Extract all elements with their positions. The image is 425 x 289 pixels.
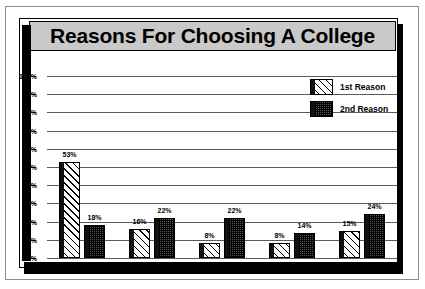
legend-swatch-left-edge bbox=[311, 102, 315, 116]
y-axis-tick-mark bbox=[31, 185, 36, 186]
bar-second-reason[interactable] bbox=[294, 233, 315, 258]
legend-swatch-second-reason[interactable] bbox=[310, 101, 333, 117]
gridline bbox=[47, 149, 397, 150]
y-axis-tick-mark bbox=[31, 258, 36, 259]
y-axis-tick-mark bbox=[31, 131, 36, 132]
y-axis-tick-mark bbox=[31, 94, 36, 95]
y-axis-tick-mark bbox=[31, 167, 36, 168]
gridline bbox=[47, 131, 397, 132]
legend-label: 2nd Reason bbox=[340, 104, 388, 114]
bar-value-label: 8% bbox=[274, 232, 284, 239]
gridline bbox=[47, 94, 397, 95]
y-axis-tick-mark bbox=[31, 149, 36, 150]
bar-left-edge bbox=[130, 230, 134, 257]
gridline bbox=[47, 167, 397, 168]
bar-value-label: 22% bbox=[227, 207, 241, 214]
bar-value-label: 8% bbox=[204, 232, 214, 239]
bar-first-reason[interactable] bbox=[269, 243, 290, 258]
y-axis-tick-mark bbox=[31, 203, 36, 204]
bar-second-reason[interactable] bbox=[84, 225, 105, 258]
bar-left-edge bbox=[270, 244, 274, 257]
bar-first-reason[interactable] bbox=[129, 229, 150, 258]
category-label: Nearby Location bbox=[55, 262, 110, 269]
bar-value-label: 24% bbox=[367, 203, 381, 210]
category-label: Low Cost bbox=[206, 262, 238, 269]
bar-first-reason[interactable] bbox=[59, 162, 80, 258]
category-label: Academic Quality bbox=[263, 262, 322, 269]
gridline bbox=[47, 76, 397, 77]
bar-left-edge bbox=[365, 215, 369, 257]
bar-left-edge bbox=[295, 234, 299, 257]
bar-value-label: 53% bbox=[62, 151, 76, 158]
bar-value-label: 15% bbox=[342, 220, 356, 227]
y-axis-tick-mark bbox=[31, 240, 36, 241]
bar-left-edge bbox=[155, 219, 159, 257]
bar-left-edge bbox=[200, 244, 204, 257]
gridline bbox=[47, 203, 397, 204]
y-axis-spine bbox=[22, 25, 31, 261]
gridline bbox=[47, 258, 397, 259]
bar-first-reason[interactable] bbox=[339, 231, 360, 258]
category-label: Others bbox=[351, 262, 374, 269]
bar-left-edge bbox=[340, 232, 344, 257]
bar-left-edge bbox=[225, 219, 229, 257]
y-axis-tick-mark bbox=[31, 76, 36, 77]
chart-title-banner: Reasons For Choosing A College bbox=[29, 21, 396, 51]
chart-title: Reasons For Choosing A College bbox=[50, 24, 375, 48]
category-label: Type of Program bbox=[124, 262, 179, 269]
legend-swatch-first-reason[interactable] bbox=[310, 79, 333, 95]
bar-second-reason[interactable] bbox=[154, 218, 175, 258]
gridline bbox=[47, 185, 397, 186]
bar-second-reason[interactable] bbox=[224, 218, 245, 258]
legend-swatch-left-edge bbox=[311, 80, 315, 94]
bar-left-edge bbox=[85, 226, 89, 257]
bar-left-edge bbox=[60, 163, 64, 257]
legend-label: 1st Reason bbox=[340, 82, 385, 92]
bar-value-label: 14% bbox=[297, 222, 311, 229]
bar-value-label: 18% bbox=[87, 214, 101, 221]
y-axis-tick-mark bbox=[31, 222, 36, 223]
bar-value-label: 16% bbox=[132, 218, 146, 225]
bar-first-reason[interactable] bbox=[199, 243, 220, 258]
bar-second-reason[interactable] bbox=[364, 214, 385, 258]
bar-value-label: 22% bbox=[157, 207, 171, 214]
y-axis-tick-mark bbox=[31, 112, 36, 113]
